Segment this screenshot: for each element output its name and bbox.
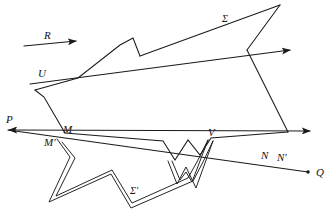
label-U: U [38, 68, 46, 79]
label-sigma: Σ [222, 14, 228, 24]
label-Q: Q [316, 167, 324, 178]
sigma-edge-bottom [65, 132, 288, 160]
sigma-edge-upper-long [140, 5, 280, 56]
direction-arrow-R [24, 41, 76, 46]
figure-container: R Σ U P M M′ V N N′ Q Σ′ [0, 0, 332, 224]
label-R: R [44, 30, 51, 41]
label-N-prime: N′ [277, 152, 287, 163]
label-sigma-prime: Σ′ [130, 186, 138, 196]
sigma-surface-group [35, 5, 288, 160]
sigma-prime-surface-group [49, 139, 213, 208]
sigma-edge-right [247, 50, 288, 132]
sigma-prime-outer-contour [49, 139, 213, 208]
sigma-prime-right-zigzag-outer [168, 141, 213, 188]
label-M: M [63, 124, 72, 135]
sigma-edge-peak [35, 38, 140, 90]
sigma-edge-notch-right [247, 5, 280, 50]
ray-through-U [30, 50, 290, 84]
label-N: N [261, 150, 268, 161]
sigma-edge-upper-left [35, 90, 65, 133]
label-P: P [6, 114, 13, 125]
label-M-prime: M′ [44, 137, 56, 148]
label-V: V [208, 127, 215, 138]
ray-P-horizontal [9, 130, 310, 131]
